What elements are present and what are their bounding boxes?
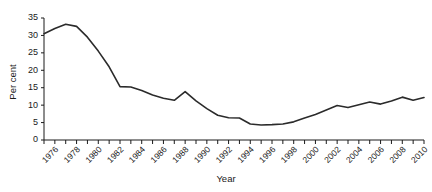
x-tick-label: 1990 xyxy=(192,144,213,165)
x-axis: 1976197819801982198419861988199019921994… xyxy=(40,140,430,165)
x-tick-label: 1986 xyxy=(148,144,169,165)
x-tick-label: 1982 xyxy=(105,144,126,165)
x-tick-label: 1994 xyxy=(235,144,256,165)
x-tick-label: 1996 xyxy=(257,144,278,165)
x-tick-label: 1980 xyxy=(83,144,104,165)
y-tick-label: 30 xyxy=(28,30,38,40)
x-tick-label: 2002 xyxy=(322,144,343,165)
y-tick-label: 20 xyxy=(28,65,38,75)
y-tick-label: 15 xyxy=(28,82,38,92)
x-tick-label: 1992 xyxy=(214,144,235,165)
y-tick-label: 0 xyxy=(33,134,38,144)
x-tick-label: 2010 xyxy=(409,144,430,165)
line-chart: 05101520253035 1976197819801982198419861… xyxy=(0,0,432,192)
x-tick-label: 2000 xyxy=(300,144,321,165)
y-tick-label: 25 xyxy=(28,47,38,57)
data-series-group xyxy=(44,24,424,125)
x-tick-label: 2006 xyxy=(366,144,387,165)
x-tick-label: 1978 xyxy=(62,144,83,165)
x-tick-label: 1998 xyxy=(279,144,300,165)
chart-canvas: 05101520253035 1976197819801982198419861… xyxy=(0,0,432,192)
data-line-per-cent xyxy=(44,24,424,125)
x-tick-label: 2004 xyxy=(344,144,365,165)
x-tick-label: 1988 xyxy=(170,144,191,165)
x-tick-label: 2008 xyxy=(387,144,408,165)
x-tick-label: 1976 xyxy=(40,144,61,165)
y-tick-label: 35 xyxy=(28,12,38,22)
y-axis-title: Per cent xyxy=(7,64,18,100)
y-tick-label: 5 xyxy=(33,117,38,127)
x-tick-label: 1984 xyxy=(127,144,148,165)
y-tick-label: 10 xyxy=(28,100,38,110)
x-axis-title: Year xyxy=(216,173,235,184)
y-axis: 05101520253035 xyxy=(28,12,44,144)
